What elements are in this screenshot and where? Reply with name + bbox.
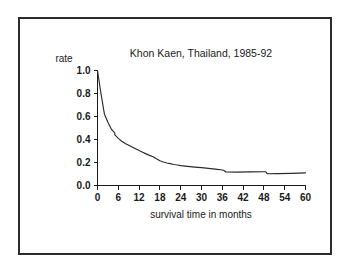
figure-root: Khon Kaen, Thailand, 1985-92 rate 0.00.2…: [0, 0, 348, 269]
survival-rate-line: [98, 71, 306, 174]
x-tick-label: 60: [300, 192, 312, 203]
y-axis-title: rate: [55, 53, 73, 64]
y-tick-label: 0.2: [77, 157, 91, 168]
x-tick-label: 54: [279, 192, 291, 203]
survival-curve-chart: Khon Kaen, Thailand, 1985-92 rate 0.00.2…: [0, 0, 348, 269]
y-tick-label: 0.6: [77, 111, 91, 122]
x-axis-title: survival time in months: [150, 209, 252, 220]
y-axis-ticks: 0.00.20.40.60.81.0: [77, 65, 98, 191]
x-tick-label: 30: [196, 192, 208, 203]
x-axis-ticks: 06121824303642485460: [95, 186, 312, 203]
x-tick-label: 12: [134, 192, 146, 203]
x-tick-label: 18: [154, 192, 166, 203]
chart-title: Khon Kaen, Thailand, 1985-92: [130, 47, 272, 59]
y-tick-label: 1.0: [77, 65, 91, 76]
x-tick-label: 36: [217, 192, 229, 203]
y-tick-label: 0.0: [77, 180, 91, 191]
x-tick-label: 42: [238, 192, 250, 203]
x-tick-label: 6: [116, 192, 122, 203]
x-tick-label: 0: [95, 192, 101, 203]
x-tick-label: 48: [258, 192, 270, 203]
y-tick-label: 0.8: [77, 88, 91, 99]
y-tick-label: 0.4: [77, 134, 91, 145]
x-tick-label: 24: [175, 192, 187, 203]
